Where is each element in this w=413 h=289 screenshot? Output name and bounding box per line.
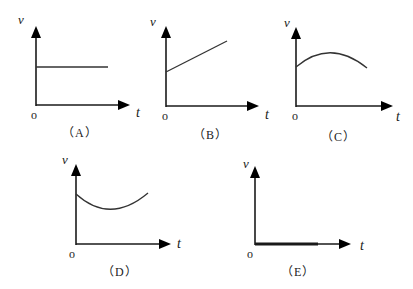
graph-c-origin-label: o (292, 110, 298, 122)
graph-a-v-label: v (18, 13, 24, 26)
graph-e-v-label: v (243, 157, 249, 170)
graph-a-v-arrow-icon (31, 26, 41, 38)
graph-d-origin-label: o (69, 248, 75, 260)
graph-a-caption: （A） (62, 127, 98, 139)
graph-a (31, 26, 130, 110)
graph-b-t-label: t (265, 108, 269, 122)
graph-a-t-label: t (136, 106, 140, 120)
graph-b-caption: （B） (193, 129, 228, 141)
graph-c-v-arrow-icon (291, 27, 301, 39)
graph-a-t-arrow-icon (118, 100, 130, 110)
graph-c-v-label: v (284, 16, 290, 29)
graph-c (291, 27, 393, 111)
graph-e (250, 166, 351, 249)
graph-d-caption: （D） (102, 266, 138, 278)
graph-c-t-arrow-icon (381, 101, 393, 111)
graph-c-t-label: t (396, 110, 400, 124)
graph-e-t-label: t (360, 239, 364, 253)
graph-b-v-label: v (150, 15, 156, 28)
graph-d-v-label: v (62, 153, 68, 166)
graph-d-arc-curve (76, 193, 148, 209)
graph-d-v-arrow-icon (71, 164, 81, 176)
graph-c-arc-curve (296, 53, 367, 68)
graph-a-origin-label: o (31, 109, 37, 121)
graph-d (71, 164, 171, 249)
graph-e-t-arrow-icon (339, 239, 351, 249)
graph-e-origin-label: o (247, 248, 253, 260)
graph-b (161, 26, 259, 111)
graph-d-t-arrow-icon (159, 239, 171, 249)
graph-b-v-arrow-icon (161, 26, 171, 38)
graph-e-v-arrow-icon (250, 166, 260, 178)
graph-b-linear-line (166, 41, 227, 72)
graph-d-t-label: t (177, 237, 181, 251)
graph-b-t-arrow-icon (247, 101, 259, 111)
vt-graphs-figure (0, 0, 413, 289)
graph-b-origin-label: o (162, 110, 168, 122)
graph-e-caption: （E） (281, 266, 315, 278)
graph-c-caption: （C） (321, 131, 356, 143)
